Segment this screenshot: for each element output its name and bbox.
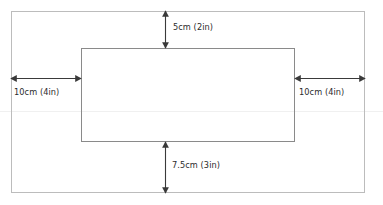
- left-margin-arrow: [5, 72, 87, 85]
- top-margin-arrow: [159, 5, 172, 54]
- top-margin-label: 5cm (2in): [173, 23, 213, 32]
- right-margin-arrow: [289, 72, 371, 85]
- bottom-margin-label: 7.5cm (3in): [172, 161, 220, 170]
- left-margin-label: 10cm (4in): [14, 88, 59, 97]
- content-block-rect: [81, 48, 295, 142]
- margin-dimension-diagram: 5cm (2in) 7.5cm (3in) 10cm (4in) 10cm (4…: [0, 0, 383, 205]
- bottom-margin-arrow: [159, 136, 172, 199]
- right-margin-label: 10cm (4in): [299, 88, 344, 97]
